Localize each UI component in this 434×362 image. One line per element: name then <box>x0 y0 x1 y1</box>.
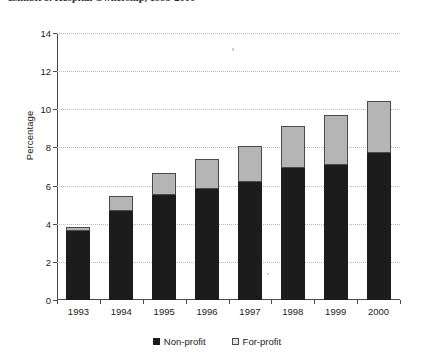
y-tick-label: 14 <box>40 28 51 39</box>
y-tick-mark <box>53 71 57 72</box>
y-tick-mark <box>53 262 57 263</box>
plot-area: 02468101214 1993199419951996199719981999… <box>57 33 400 300</box>
bar-segment-for-profit[interactable] <box>367 101 391 153</box>
x-tick-mark <box>357 300 358 304</box>
y-tick-mark <box>53 147 57 148</box>
bar-segment-for-profit[interactable] <box>324 115 348 165</box>
y-axis-line <box>57 33 58 300</box>
x-tick-label: 1994 <box>111 306 132 317</box>
y-tick-label: 8 <box>46 142 51 153</box>
bar-segment-for-profit[interactable] <box>238 146 262 182</box>
bar-segment-non-profit[interactable] <box>238 182 262 300</box>
bar-segment-for-profit[interactable] <box>109 196 133 211</box>
x-tick-label: 1999 <box>325 306 346 317</box>
y-axis-label: Percentage <box>24 81 35 191</box>
bar-stack[interactable] <box>152 33 176 300</box>
legend-label: For-profit <box>243 336 282 347</box>
chart-legend: Non-profitFor-profit <box>0 336 434 347</box>
scan-artifact <box>267 273 269 275</box>
x-tick-label: 1993 <box>68 306 89 317</box>
chart-title-clipped: Exhibit 3. Hospital Ownership, 1993-2000 <box>8 0 238 7</box>
bar-stack[interactable] <box>109 33 133 300</box>
y-tick-label: 2 <box>46 256 51 267</box>
chart-figure: Exhibit 3. Hospital Ownership, 1993-2000… <box>0 0 434 362</box>
x-tick-mark <box>57 300 58 304</box>
y-tick-label: 10 <box>40 104 51 115</box>
bar-segment-non-profit[interactable] <box>195 189 219 300</box>
bar-stack[interactable] <box>66 33 90 300</box>
bar-segment-for-profit[interactable] <box>152 173 176 195</box>
bar-stack[interactable] <box>324 33 348 300</box>
x-tick-mark <box>400 300 401 304</box>
bar-segment-non-profit[interactable] <box>109 211 133 300</box>
bar-segment-for-profit[interactable] <box>281 126 305 168</box>
x-tick-label: 1997 <box>239 306 260 317</box>
bar-segment-for-profit[interactable] <box>195 159 219 190</box>
y-tick-mark <box>53 33 57 34</box>
scan-artifact <box>232 48 234 51</box>
x-tick-mark <box>271 300 272 304</box>
y-tick-label: 6 <box>46 180 51 191</box>
y-tick-label: 12 <box>40 66 51 77</box>
bar-stack[interactable] <box>367 33 391 300</box>
x-tick-mark <box>314 300 315 304</box>
x-tick-label: 1995 <box>154 306 175 317</box>
bar-stack[interactable] <box>281 33 305 300</box>
x-tick-label: 2000 <box>368 306 389 317</box>
bar-segment-non-profit[interactable] <box>281 168 305 300</box>
y-tick-label: 0 <box>46 295 51 306</box>
y-tick-mark <box>53 186 57 187</box>
bar-segment-for-profit[interactable] <box>66 227 90 232</box>
legend-label: Non-profit <box>164 336 206 347</box>
bar-stack[interactable] <box>238 33 262 300</box>
bar-stack[interactable] <box>195 33 219 300</box>
legend-item-forprofit[interactable]: For-profit <box>232 336 282 347</box>
bar-segment-non-profit[interactable] <box>324 165 348 300</box>
y-tick-mark <box>53 224 57 225</box>
x-tick-mark <box>143 300 144 304</box>
x-tick-mark <box>100 300 101 304</box>
y-tick-mark <box>53 109 57 110</box>
legend-swatch-forprofit-icon <box>232 338 239 345</box>
y-tick-label: 4 <box>46 218 51 229</box>
bar-segment-non-profit[interactable] <box>152 195 176 300</box>
page-title: Exhibit 3. Hospital Ownership, 1993-2000 <box>8 0 195 3</box>
x-tick-mark <box>186 300 187 304</box>
x-tick-label: 1998 <box>282 306 303 317</box>
legend-swatch-nonprofit-icon <box>153 338 160 345</box>
legend-item-nonprofit[interactable]: Non-profit <box>153 336 206 347</box>
x-tick-label: 1996 <box>196 306 217 317</box>
bar-segment-non-profit[interactable] <box>66 231 90 300</box>
x-tick-mark <box>229 300 230 304</box>
bar-segment-non-profit[interactable] <box>367 153 391 300</box>
